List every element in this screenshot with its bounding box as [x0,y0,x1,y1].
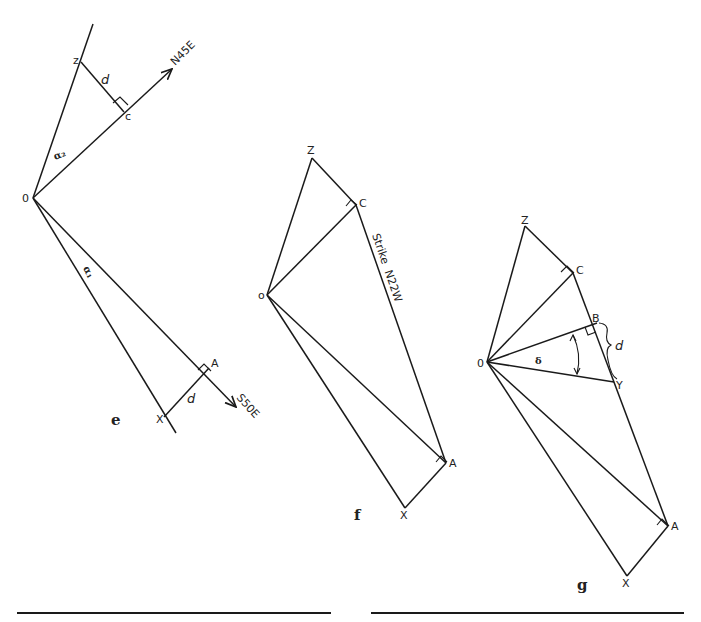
label-o: 0 [477,357,484,370]
line-o-z [267,158,312,295]
label-d-lower: d [187,391,196,406]
label-z: z [73,54,79,67]
line-o-x [267,295,405,508]
label-z: Z [521,214,529,227]
right-angle-c [113,97,128,105]
angle-arrow-down [574,368,580,374]
caption-g: g [577,576,588,594]
label-c: c [125,110,131,123]
line-a-x [627,526,668,576]
label-c: C [576,264,584,277]
label-z: Z [307,144,315,157]
line-o-a [267,295,446,463]
line-z-c [525,226,573,273]
arrow-s50e [33,198,236,407]
label-a: A [211,357,219,370]
label-alpha1: α₁ [81,264,96,280]
line-a-x [405,463,446,508]
label-alpha2: α₂ [52,147,67,161]
label-d-upper: d [101,72,110,87]
label-b: B [592,312,600,325]
line-o-z-extended [33,24,93,198]
label-c: C [359,197,367,210]
label-y: Y [615,379,623,392]
label-a: A [671,520,679,533]
label-d: d [615,338,624,353]
angle-arrow-up [570,335,576,341]
figure-f: o Z C Strike N22W A X f [258,144,457,524]
figure-g: 0 Z C B Y d δ A X g [477,214,679,594]
strike-line [573,273,668,526]
label-x: X [622,577,630,590]
line-z-c [312,158,356,205]
caption-e: e [111,411,121,429]
label-x: X [156,413,164,426]
label-s50e: S50E [234,391,262,420]
label-n45e: N45E [168,38,198,68]
caption-f: f [354,506,362,524]
label-o: o [258,289,265,302]
label-a: A [449,457,457,470]
arrow-n45e [33,69,172,198]
line-o-c [267,205,356,295]
strike-line [356,205,446,463]
line-o-x-extended [33,198,176,433]
line-z-c [81,62,124,112]
figure-e: 0 z c d N45E α₂ α₁ A d S50E X e [22,24,262,433]
label-x: X [400,509,408,522]
label-delta: δ [535,355,542,366]
line-o-b [487,323,597,362]
label-o: 0 [22,192,29,205]
diagram-canvas: 0 z c d N45E α₂ α₁ A d S50E X e o Z C St… [0,0,701,622]
